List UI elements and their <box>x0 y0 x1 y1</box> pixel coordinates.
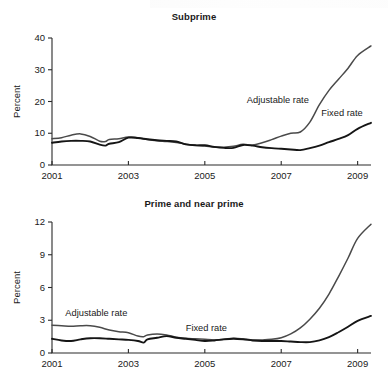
x-tick-label: 2005 <box>194 358 215 369</box>
y-tick-label: 40 <box>34 32 45 43</box>
chart-panel-prime: 03691220012003200520072009PercentAdjusta… <box>0 190 388 372</box>
y-tick-label: 30 <box>34 64 45 75</box>
y-tick-label: 6 <box>40 282 45 293</box>
chart-panel-subprime: Subprime 01020304020012003200520072009Pe… <box>0 0 388 190</box>
x-tick-label: 2007 <box>271 170 292 181</box>
x-tick-label: 2009 <box>347 170 368 181</box>
annotation-adjustable-rate: Adjustable rate <box>65 308 127 318</box>
panel-title-prime: Prime and near prime <box>0 198 388 209</box>
x-tick-label: 2007 <box>271 358 292 369</box>
x-tick-label: 2001 <box>41 358 62 369</box>
y-tick-label: 20 <box>34 96 45 107</box>
x-tick-label: 2005 <box>194 170 215 181</box>
x-tick-label: 2009 <box>347 358 368 369</box>
series-adjustable-rate <box>52 46 371 147</box>
series-fixed-rate <box>52 123 371 150</box>
y-axis-label: Percent <box>11 271 22 304</box>
x-tick-label: 2003 <box>118 170 139 181</box>
y-tick-label: 0 <box>40 347 45 358</box>
y-tick-label: 10 <box>34 127 45 138</box>
y-tick-label: 0 <box>40 159 45 170</box>
x-tick-label: 2003 <box>118 358 139 369</box>
y-tick-label: 12 <box>34 216 45 227</box>
subprime-chart-svg: 01020304020012003200520072009PercentAdju… <box>0 0 388 190</box>
annotation-adjustable-rate: Adjustable rate <box>247 95 309 105</box>
y-tick-label: 9 <box>40 249 45 260</box>
prime-chart-svg: 03691220012003200520072009PercentAdjusta… <box>0 190 388 372</box>
annotation-fixed-rate: Fixed rate <box>321 108 362 118</box>
chart-figure: { "figure": { "panels": [ { "title": "Su… <box>0 0 388 372</box>
annotation-fixed-rate: Fixed rate <box>186 323 227 333</box>
x-tick-label: 2001 <box>41 170 62 181</box>
y-tick-label: 3 <box>40 314 45 325</box>
axis-spine <box>52 222 371 353</box>
y-axis-label: Percent <box>11 85 22 118</box>
